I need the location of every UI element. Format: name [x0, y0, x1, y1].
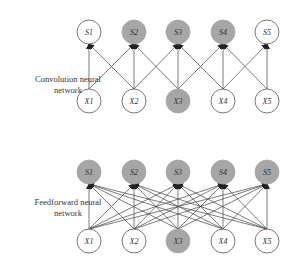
node-s2-output: S2: [122, 20, 146, 44]
node-s3-output: S3: [166, 20, 190, 44]
node-label: S3: [174, 168, 182, 177]
node-label: X4: [218, 97, 228, 106]
label-line-2: network: [18, 85, 118, 96]
node-label: X3: [173, 237, 183, 246]
node-x2-input: X2: [122, 229, 146, 253]
node-label: X2: [129, 97, 139, 106]
node-label: S2: [130, 168, 138, 177]
node-x2-input: X2: [122, 89, 146, 113]
node-label: X5: [262, 237, 272, 246]
feedforward-network-label: Feedforward neural network: [18, 197, 118, 219]
node-x5-input: X5: [255, 229, 279, 253]
node-label: S5: [263, 28, 271, 37]
node-label: X3: [173, 97, 183, 106]
node-label: S2: [130, 28, 138, 37]
node-s4-output: S4: [211, 20, 235, 44]
node-s5-output: S5: [255, 160, 279, 184]
node-label: X2: [129, 237, 139, 246]
diagram-canvas: S1S2S3S4S5X1X2X3X4X5 S1S2S3S4S5X1X2X3X4X…: [0, 0, 298, 263]
node-s4-output: S4: [211, 160, 235, 184]
node-label: S4: [219, 168, 227, 177]
node-x4-input: X4: [211, 229, 235, 253]
node-label: X1: [84, 237, 94, 246]
node-x5-input: X5: [255, 89, 279, 113]
node-label: S5: [263, 168, 271, 177]
node-s1-output: S1: [77, 20, 101, 44]
convolution-network-label: Convolution neural network: [18, 74, 118, 96]
node-label: X4: [218, 237, 228, 246]
node-x1-input: X1: [77, 229, 101, 253]
node-label: S4: [219, 28, 227, 37]
node-label: X5: [262, 97, 272, 106]
node-label: S1: [85, 168, 93, 177]
node-label: S1: [85, 28, 93, 37]
label-line-2: network: [18, 208, 118, 219]
node-x3-input: X3: [166, 229, 190, 253]
node-s3-output: S3: [166, 160, 190, 184]
node-s2-output: S2: [122, 160, 146, 184]
node-label: S3: [174, 28, 182, 37]
convolution-network-diagram: S1S2S3S4S5X1X2X3X4X5: [77, 20, 279, 113]
node-x4-input: X4: [211, 89, 235, 113]
label-line-1: Convolution neural: [18, 74, 118, 85]
node-s5-output: S5: [255, 20, 279, 44]
node-s1-output: S1: [77, 160, 101, 184]
node-label: X1: [84, 97, 94, 106]
label-line-1: Feedforward neural: [18, 197, 118, 208]
node-x3-input: X3: [166, 89, 190, 113]
